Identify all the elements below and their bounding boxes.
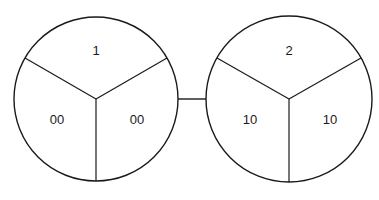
node-1-label-bottom-left: 00 xyxy=(50,112,64,127)
node-1: 1 00 00 xyxy=(14,17,178,181)
node-1-label-bottom-right: 00 xyxy=(130,112,144,127)
node-2-label-bottom-left: 10 xyxy=(243,112,257,127)
node-2: 2 10 10 xyxy=(206,16,372,182)
node-2-label-top: 2 xyxy=(285,43,292,58)
diagram-canvas: 1 00 00 2 10 10 xyxy=(0,0,379,200)
node-2-label-bottom-right: 10 xyxy=(323,112,337,127)
node-1-label-top: 1 xyxy=(92,43,99,58)
